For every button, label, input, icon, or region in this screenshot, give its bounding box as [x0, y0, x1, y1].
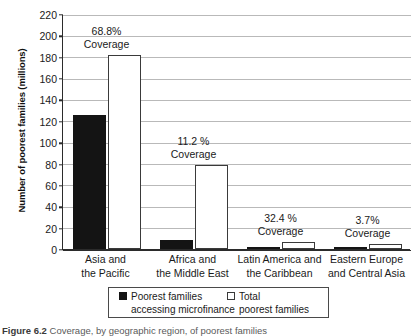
y-tick-label: 180	[39, 52, 57, 64]
plot-area: 020406080100120140160180200220 68.8%Cove…	[62, 15, 410, 250]
coverage-annotation: 32.4 %Coverage	[237, 212, 324, 238]
bar-microfinance[interactable]	[73, 115, 106, 249]
legend-entry-line1: Poorest families	[131, 290, 235, 303]
y-tick-label: 20	[45, 223, 57, 235]
figure-caption-number: Figure 6.2	[2, 325, 47, 336]
legend-entry[interactable]: Totalpoorest families	[239, 290, 309, 316]
coverage-annotation: 68.8%Coverage	[63, 25, 150, 51]
y-tick-label: 140	[39, 94, 57, 106]
coverage-percent: 11.2 %	[150, 135, 237, 148]
bar-microfinance[interactable]	[247, 247, 280, 249]
y-tick-label: 220	[39, 9, 57, 21]
chart-legend: Poorest familiesaccessing microfinanceTo…	[108, 287, 329, 318]
coverage-label: Coverage	[324, 227, 411, 240]
y-tick-label: 40	[45, 201, 57, 213]
y-tick-label: 120	[39, 116, 57, 128]
x-category-label: Latin America andthe Caribbean	[230, 253, 329, 280]
legend-entry-line2: poorest families	[239, 303, 309, 316]
bar-total-poorest[interactable]	[369, 244, 402, 249]
bar-microfinance[interactable]	[160, 240, 193, 249]
coverage-annotation: 11.2 %Coverage	[150, 135, 237, 161]
x-category-label-line: Latin America and	[230, 253, 329, 267]
figure-caption: Figure 6.2 Coverage, by geographic regio…	[2, 325, 267, 336]
x-category-label-line: Eastern Europe	[317, 253, 416, 267]
x-category-label-line: the Pacific	[56, 267, 155, 281]
legend-swatch-microfinance	[119, 292, 127, 300]
y-tick-label: 80	[45, 159, 57, 171]
x-category-label-line: and Central Asia	[317, 267, 416, 281]
legend-entry[interactable]: Poorest familiesaccessing microfinance	[131, 290, 235, 316]
legend-entry-line2: accessing microfinance	[131, 303, 235, 316]
y-tick-mark	[59, 249, 63, 250]
legend-swatch-total	[227, 292, 235, 300]
y-axis-title: Number of poorest families (millions)	[16, 16, 27, 246]
gridline	[63, 250, 411, 252]
coverage-annotation: 3.7%Coverage	[324, 214, 411, 240]
bar-total-poorest[interactable]	[282, 242, 315, 249]
x-category-label-line: the Middle East	[143, 267, 242, 281]
y-tick-label: 160	[39, 73, 57, 85]
x-category-label: Africa andthe Middle East	[143, 253, 242, 280]
y-tick-label: 60	[45, 180, 57, 192]
x-category-label: Eastern Europeand Central Asia	[317, 253, 416, 280]
x-category-label: Asia andthe Pacific	[56, 253, 155, 280]
coverage-percent: 3.7%	[324, 214, 411, 227]
y-tick-label: 200	[39, 30, 57, 42]
legend-entry-line1: Total	[239, 290, 309, 303]
coverage-label: Coverage	[150, 148, 237, 161]
coverage-percent: 32.4 %	[237, 212, 324, 225]
bar-total-poorest[interactable]	[195, 165, 228, 249]
y-tick-label: 100	[39, 137, 57, 149]
x-category-label-line: Asia and	[56, 253, 155, 267]
coverage-label: Coverage	[63, 38, 150, 51]
bar-total-poorest[interactable]	[108, 55, 141, 249]
bar-group	[150, 15, 237, 249]
bar-microfinance[interactable]	[334, 247, 367, 249]
x-category-label-line: the Caribbean	[230, 267, 329, 281]
coverage-label: Coverage	[237, 225, 324, 238]
figure-caption-text: Coverage, by geographic region, of poore…	[50, 325, 268, 336]
coverage-percent: 68.8%	[63, 25, 150, 38]
x-category-label-line: Africa and	[143, 253, 242, 267]
